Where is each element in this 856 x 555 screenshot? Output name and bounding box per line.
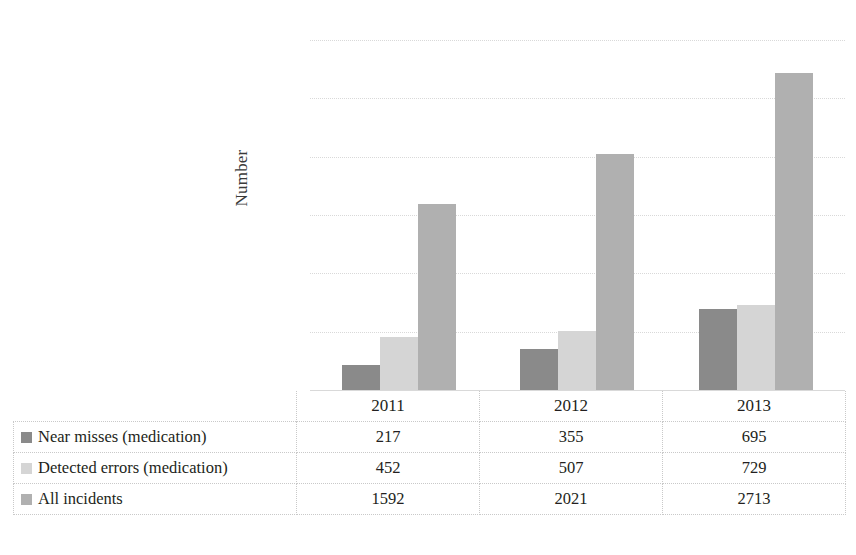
bar — [699, 309, 737, 390]
legend-swatch-icon — [21, 432, 32, 443]
legend-swatch-icon — [21, 463, 32, 474]
table-value-cell: 2713 — [663, 484, 846, 515]
data-table: 201120122013 Near misses (medication)217… — [13, 391, 846, 515]
legend-label-text: All incidents — [38, 489, 123, 508]
bar — [737, 305, 775, 390]
table-value-cell: 452 — [297, 453, 480, 484]
legend-label-text: Near misses (medication) — [38, 427, 207, 446]
table-value-cell: 1592 — [297, 484, 480, 515]
table-value-cell: 729 — [663, 453, 846, 484]
bar-group — [310, 40, 488, 390]
table-row: Detected errors (medication)452507729 — [14, 453, 846, 484]
bar — [380, 337, 418, 390]
bar — [418, 204, 456, 390]
bar-group — [667, 40, 845, 390]
bar — [775, 73, 813, 390]
legend-label-text: Detected errors (medication) — [38, 458, 228, 477]
table-value-cell: 695 — [663, 422, 846, 453]
bar — [596, 154, 634, 390]
legend-row-label: Detected errors (medication) — [14, 453, 297, 484]
table-corner-cell — [14, 391, 297, 422]
table-row: Near misses (medication)217355695 — [14, 422, 846, 453]
legend-row-label: Near misses (medication) — [14, 422, 297, 453]
y-axis-title: Number — [232, 150, 252, 207]
table-column-header-2011: 2011 — [297, 391, 480, 422]
legend-row-label: All incidents — [14, 484, 297, 515]
bar — [558, 331, 596, 390]
bar — [520, 349, 558, 390]
table-value-cell: 507 — [480, 453, 663, 484]
table-value-cell: 355 — [480, 422, 663, 453]
table-column-header-2012: 2012 — [480, 391, 663, 422]
bars-layer — [310, 40, 845, 390]
bar — [342, 365, 380, 390]
table-body: Near misses (medication)217355695Detecte… — [14, 422, 846, 515]
table-value-cell: 2021 — [480, 484, 663, 515]
table-column-header-2013: 2013 — [663, 391, 846, 422]
table-row: All incidents159220212713 — [14, 484, 846, 515]
legend-swatch-icon — [21, 494, 32, 505]
table-value-cell: 217 — [297, 422, 480, 453]
plot-area — [310, 40, 845, 390]
bar-chart-figure: Number 300025002000150010005000 20112012… — [0, 0, 856, 555]
bar-group — [488, 40, 666, 390]
table-header-row: 201120122013 — [14, 391, 846, 422]
